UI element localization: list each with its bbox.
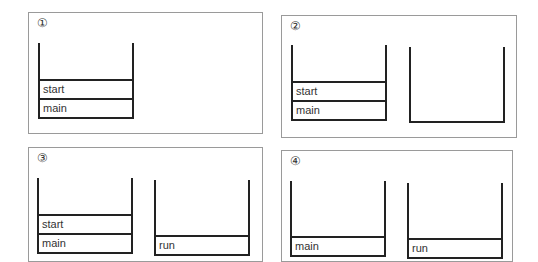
stack-frame-main: main xyxy=(292,236,384,255)
call-stack-main-thread: start main xyxy=(38,43,134,119)
stack-frame-main: main xyxy=(40,98,132,117)
call-stack-new-thread xyxy=(409,47,505,123)
call-stack-main-thread: start main xyxy=(291,45,387,121)
stack-frame-main: main xyxy=(293,100,385,119)
stack-frame-start: start xyxy=(293,81,385,100)
panel-number: ④ xyxy=(290,154,301,168)
call-stack-main-thread: start main xyxy=(37,178,133,254)
call-stack-main-thread: main xyxy=(290,181,386,257)
call-stack-new-thread: run xyxy=(407,183,503,259)
stack-frame-start: start xyxy=(40,79,132,98)
stack-frame-run: run xyxy=(409,238,501,257)
stack-frame-main: main xyxy=(39,233,131,252)
stack-frame-start: start xyxy=(39,214,131,233)
stack-frame-run: run xyxy=(156,235,248,254)
panel-number: ③ xyxy=(37,151,48,165)
call-stack-new-thread: run xyxy=(154,180,250,256)
panel-number: ① xyxy=(37,16,48,30)
panel-number: ② xyxy=(290,19,301,33)
